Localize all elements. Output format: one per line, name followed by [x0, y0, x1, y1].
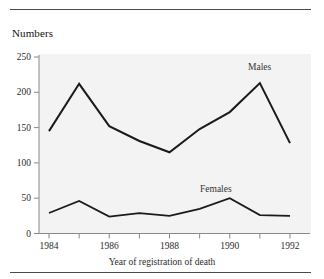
y-axis-tick-label: 250 [0, 52, 31, 62]
bottom-horizontal-rule [10, 272, 311, 273]
x-axis-tick-label: 1984 [40, 241, 59, 251]
series-label-females: Females [200, 184, 232, 194]
series-line-females [49, 198, 290, 216]
x-axis-tick-label: 1986 [100, 241, 119, 251]
x-axis-title: Year of registration of death [0, 257, 324, 267]
chart-plot [0, 0, 324, 279]
x-axis-ticks [49, 234, 290, 239]
x-axis-tick-label: 1988 [160, 241, 179, 251]
y-axis-ticks [34, 57, 39, 234]
y-axis-tick-label: 150 [0, 123, 31, 133]
x-axis-tick-label: 1990 [220, 241, 239, 251]
x-axis-tick-label: 1992 [281, 241, 300, 251]
chart-figure: Numbers 050100150200250 1984198619881990… [0, 0, 324, 279]
y-axis-tick-label: 50 [0, 193, 31, 203]
y-axis-tick-label: 100 [0, 158, 31, 168]
axis-lines [39, 55, 310, 234]
y-axis-tick-label: 200 [0, 87, 31, 97]
y-axis-tick-label: 0 [0, 229, 31, 239]
series-line-males [49, 83, 290, 152]
series-label-males: Males [248, 62, 271, 72]
